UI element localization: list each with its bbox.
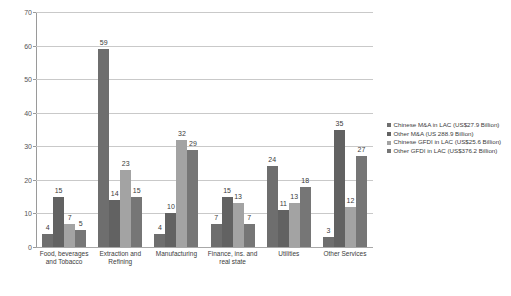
bar-slot: 15 [222,12,233,247]
bar-value-label: 4 [158,224,162,231]
bar[interactable]: 23 [120,170,131,247]
legend-item[interactable]: Chinese GFDI in LAC (US$25.6 Billion) [387,139,511,145]
bar-group: 59142315 [92,12,148,247]
bar[interactable]: 4 [42,234,53,247]
bar[interactable]: 15 [222,197,233,247]
bar[interactable]: 7 [244,224,255,248]
legend-item-label: Chinese GFDI in LAC (US$25.6 Billion) [394,139,502,145]
bar-chart: 010203040506070 415755914231541032297151… [0,0,511,296]
bar-value-label: 12 [347,197,355,204]
y-axis-tick-label: 50 [2,76,32,83]
bar-slot: 15 [53,12,64,247]
bar[interactable]: 12 [345,207,356,247]
bar[interactable]: 15 [131,197,142,247]
bar-value-label: 10 [167,203,175,210]
bar-groups: 4157559142315410322971513724111318335122… [36,12,373,247]
bar[interactable]: 3 [323,237,334,247]
bar[interactable]: 5 [75,230,86,247]
bar[interactable]: 11 [278,210,289,247]
bar-value-label: 32 [178,130,186,137]
legend-swatch-icon [387,123,391,127]
bar-slot: 4 [154,12,165,247]
x-axis-category-label: Finance, ins. and real state [205,250,261,280]
bar-slot: 3 [323,12,334,247]
bar[interactable]: 59 [98,49,109,247]
bar-slot: 35 [334,12,345,247]
bar-value-label: 13 [290,193,298,200]
x-axis-category-label: Other Services [317,250,373,280]
bar-slot: 5 [75,12,86,247]
x-axis-category-label: Manufacturing [148,250,204,280]
y-axis-tick-label: 0 [2,244,32,251]
bar-slot: 18 [300,12,311,247]
legend-swatch-icon [387,141,391,145]
bar-value-label: 7 [68,214,72,221]
bar-slot: 59 [98,12,109,247]
bar-slot: 24 [267,12,278,247]
gridline [36,247,373,248]
bar-group: 4103229 [148,12,204,247]
bar-slot: 13 [233,12,244,247]
bar-slot: 29 [187,12,198,247]
legend-item[interactable]: Other M&A (US 288.9 Billion) [387,131,511,137]
bar-group: 3351227 [317,12,373,247]
bar[interactable]: 7 [64,224,75,248]
bar-slot: 15 [131,12,142,247]
bar-slot: 27 [356,12,367,247]
legend-swatch-icon [387,132,391,136]
bar[interactable]: 32 [176,140,187,247]
bar-value-label: 7 [247,214,251,221]
y-axis-tick-label: 60 [2,43,32,50]
bar[interactable]: 13 [233,203,244,247]
bar[interactable]: 15 [53,197,64,247]
legend-item[interactable]: Chinese M&A in LAC (US$27.9 Billion) [387,122,511,128]
chart-legend: Chinese M&A in LAC (US$27.9 Billion)Othe… [387,122,511,157]
bar-slot: 11 [278,12,289,247]
x-axis-category-label: Food, beverages and Tobacco [36,250,92,280]
legend-item[interactable]: Other GFDI in LAC (US$376.2 Billion) [387,148,511,154]
bar-slot: 14 [109,12,120,247]
y-axis-tick-label: 20 [2,177,32,184]
bar-value-label: 13 [234,193,242,200]
legend-item-label: Other GFDI in LAC (US$376.2 Billion) [394,148,498,154]
bar[interactable]: 10 [165,213,176,247]
bar-value-label: 11 [280,200,287,207]
legend-item-label: Chinese M&A in LAC (US$27.9 Billion) [394,122,500,128]
bar-group: 24111318 [261,12,317,247]
bar[interactable]: 7 [211,224,222,248]
y-axis-tick-label: 70 [2,9,32,16]
x-axis-category-label: Utilities [261,250,317,280]
bar-value-label: 7 [214,214,218,221]
x-axis-category-labels: Food, beverages and TobaccoExtraction an… [36,250,373,280]
bar-group: 41575 [36,12,92,247]
y-axis-tick-label: 30 [2,143,32,150]
bar-value-label: 15 [223,187,231,194]
bar[interactable]: 14 [109,200,120,247]
bar-value-label: 15 [55,187,63,194]
bar-value-label: 4 [46,224,50,231]
bar-value-label: 18 [301,177,309,184]
bar[interactable]: 4 [154,234,165,247]
legend-item-label: Other M&A (US 288.9 Billion) [394,131,474,137]
bar-value-label: 14 [111,190,119,197]
bar-slot: 7 [244,12,255,247]
bar[interactable]: 13 [289,203,300,247]
bar[interactable]: 18 [300,187,311,247]
bar-slot: 12 [345,12,356,247]
y-axis: 010203040506070 [0,12,32,248]
bar-value-label: 15 [133,187,141,194]
bar[interactable]: 35 [334,130,345,248]
bar-value-label: 35 [336,120,344,127]
bar-value-label: 3 [326,227,330,234]
bar[interactable]: 27 [356,156,367,247]
bar[interactable]: 24 [267,166,278,247]
bar-slot: 7 [211,12,222,247]
bar-slot: 10 [165,12,176,247]
plot-area: 4157559142315410322971513724111318335122… [36,12,373,247]
bar-value-label: 27 [358,146,366,153]
bar-value-label: 24 [268,156,276,163]
x-axis-category-label: Extraction and Refining [92,250,148,280]
legend-swatch-icon [387,149,391,153]
bar-slot: 23 [120,12,131,247]
bar[interactable]: 29 [187,150,198,247]
